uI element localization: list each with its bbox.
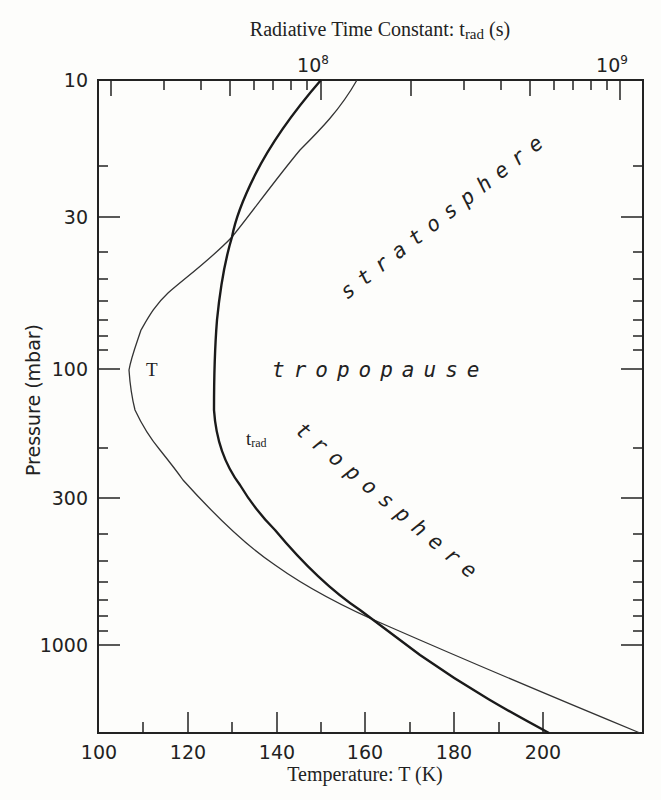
svg-text:120: 120 bbox=[170, 741, 206, 763]
chart: Radiative Time Constant: trad (s) 108 10… bbox=[0, 0, 661, 800]
svg-text:30: 30 bbox=[64, 206, 88, 228]
region-tropopause: tropopause bbox=[272, 358, 488, 382]
plot-frame bbox=[98, 80, 643, 733]
svg-text:100: 100 bbox=[81, 741, 117, 763]
chart-title: Radiative Time Constant: trad (s) bbox=[250, 18, 510, 42]
left-axis-ticks bbox=[98, 166, 120, 645]
svg-text:180: 180 bbox=[436, 741, 472, 763]
curve-label-T: T bbox=[146, 359, 158, 380]
svg-text:140: 140 bbox=[259, 741, 295, 763]
svg-text:100: 100 bbox=[52, 358, 88, 380]
y-tick-labels: 10 30 100 300 1000 bbox=[40, 69, 88, 656]
bottom-axis-ticks bbox=[143, 712, 543, 733]
svg-text:10: 10 bbox=[64, 69, 88, 91]
y-axis-label: Pressure (mbar) bbox=[22, 324, 44, 476]
x-axis-label: Temperature: T (K) bbox=[287, 763, 443, 786]
svg-text:1000: 1000 bbox=[40, 634, 88, 656]
top-axis-ticks bbox=[111, 80, 620, 100]
region-troposphere: troposphere bbox=[291, 417, 489, 588]
curve-temperature bbox=[129, 80, 640, 733]
svg-text:160: 160 bbox=[347, 741, 383, 763]
top-tick-1e9: 109 bbox=[596, 53, 628, 76]
svg-text:300: 300 bbox=[52, 487, 88, 509]
region-stratosphere: stratosphere bbox=[335, 125, 554, 304]
right-axis-ticks bbox=[621, 166, 643, 645]
svg-text:200: 200 bbox=[525, 741, 561, 763]
top-tick-1e8: 108 bbox=[297, 53, 329, 76]
curve-label-trad: trad bbox=[246, 428, 267, 450]
x-tick-labels: 100 120 140 160 180 200 bbox=[81, 741, 561, 763]
